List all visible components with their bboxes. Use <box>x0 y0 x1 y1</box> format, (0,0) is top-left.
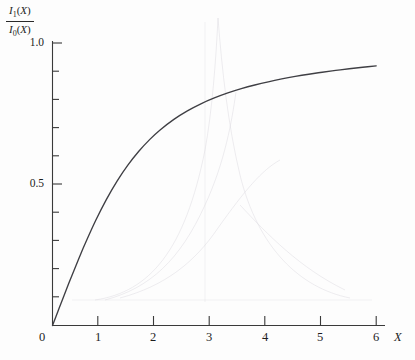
x-axis-title: X <box>394 330 402 345</box>
x-tick-label-1: 1 <box>88 330 108 345</box>
bessel-ratio-curve <box>53 66 377 326</box>
bessel-ratio-figure: I1(X) I0(X) <box>0 0 415 360</box>
axes <box>52 41 385 326</box>
x-axis-ticks <box>98 316 376 326</box>
y-tick-label-1: 1.0 <box>10 36 44 48</box>
x-tick-label-4: 4 <box>255 330 275 345</box>
y-tick-label-0: 0.5 <box>10 177 44 189</box>
x-tick-label-2: 2 <box>143 330 163 345</box>
plot-area <box>0 0 415 360</box>
x-tick-label-5: 5 <box>310 330 330 345</box>
page-bleed-through-artifacts <box>72 18 372 302</box>
x-tick-label-0: 0 <box>32 330 52 345</box>
x-tick-label-3: 3 <box>199 330 219 345</box>
y-axis-ticks <box>53 43 63 297</box>
x-tick-label-6: 6 <box>366 330 386 345</box>
